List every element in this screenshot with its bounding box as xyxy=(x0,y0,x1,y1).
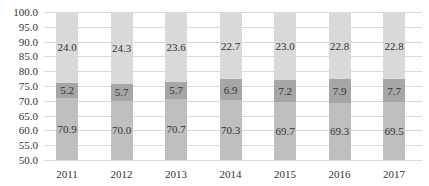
y-tick-label: 50.0 xyxy=(0,154,38,166)
x-tick-label: 2016 xyxy=(315,168,365,180)
data-label: 7.7 xyxy=(373,85,415,97)
bar-2011: 70.95.224.0 xyxy=(56,0,78,186)
data-label: 7.9 xyxy=(319,85,361,97)
data-label: 5.7 xyxy=(155,84,197,96)
y-tick-label: 85.0 xyxy=(0,50,38,62)
y-tick-label: 65.0 xyxy=(0,110,38,122)
x-tick-label: 2012 xyxy=(97,168,147,180)
data-label: 24.0 xyxy=(46,41,88,53)
data-label: 69.5 xyxy=(373,125,415,137)
data-label: 5.2 xyxy=(46,84,88,96)
bar-2016: 69.37.922.8 xyxy=(329,0,351,186)
x-tick-label: 2011 xyxy=(42,168,92,180)
data-label: 69.3 xyxy=(319,125,361,137)
y-tick-label: 60.0 xyxy=(0,124,38,136)
x-tick-label: 2015 xyxy=(260,168,310,180)
data-label: 23.6 xyxy=(155,41,197,53)
data-label: 24.3 xyxy=(101,42,143,54)
stacked-bar-chart: 100.095.090.085.080.075.070.065.060.055.… xyxy=(0,0,429,186)
data-label: 69.7 xyxy=(264,125,306,137)
data-label: 6.9 xyxy=(210,84,252,96)
x-tick-label: 2014 xyxy=(206,168,256,180)
data-label: 7.2 xyxy=(264,85,306,97)
x-tick-label: 2017 xyxy=(369,168,419,180)
y-tick-label: 95.0 xyxy=(0,21,38,33)
x-tick-label: 2013 xyxy=(151,168,201,180)
y-tick-label: 70.0 xyxy=(0,95,38,107)
data-label: 5.7 xyxy=(101,86,143,98)
data-label: 22.8 xyxy=(373,40,415,52)
data-label: 70.7 xyxy=(155,123,197,135)
data-label: 22.7 xyxy=(210,40,252,52)
y-tick-label: 75.0 xyxy=(0,80,38,92)
data-label: 70.0 xyxy=(101,124,143,136)
bar-2014: 70.36.922.7 xyxy=(220,0,242,186)
bar-2013: 70.75.723.6 xyxy=(165,0,187,186)
y-tick-label: 90.0 xyxy=(0,36,38,48)
bar-2017: 69.57.722.8 xyxy=(383,0,405,186)
y-tick-label: 80.0 xyxy=(0,65,38,77)
data-label: 22.8 xyxy=(319,40,361,52)
data-label: 23.0 xyxy=(264,40,306,52)
y-tick-label: 100.0 xyxy=(0,6,38,18)
y-tick-label: 55.0 xyxy=(0,139,38,151)
data-label: 70.3 xyxy=(210,124,252,136)
bar-2012: 70.05.724.3 xyxy=(111,0,133,186)
bar-2015: 69.77.223.0 xyxy=(274,0,296,186)
data-label: 70.9 xyxy=(46,123,88,135)
